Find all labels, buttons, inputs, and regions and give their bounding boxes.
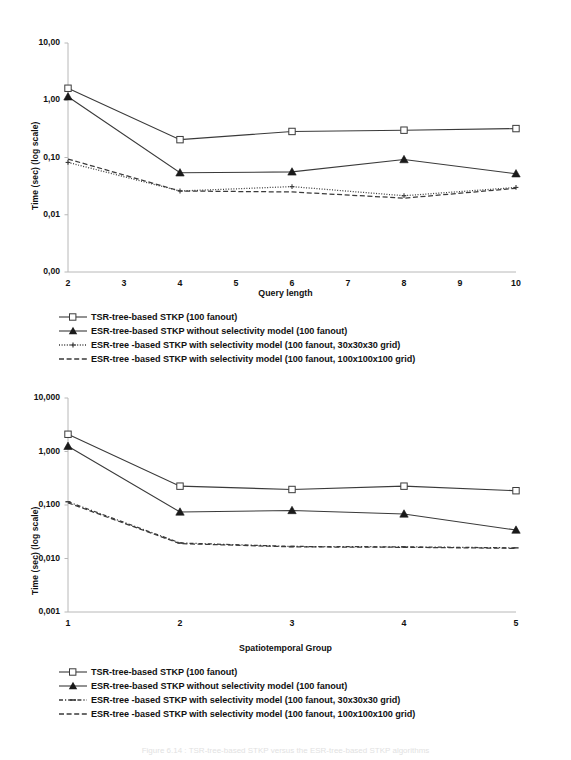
legend-marker-icon: [58, 666, 88, 678]
x-tick-label: 5: [503, 618, 529, 628]
legend-item[interactable]: ESR-tree -based STKP with selectivity mo…: [58, 707, 415, 721]
legend-item-label: ESR-tree -based STKP with selectivity mo…: [91, 708, 415, 720]
y-axis-title-1: Time (sec) (log scale): [30, 122, 40, 211]
plot-area-1: Time (sec) (log scale) Query length 10,0…: [0, 0, 571, 300]
x-tick-label: 1: [55, 618, 81, 628]
legend-marker-icon: [58, 339, 88, 351]
y-tick-label: 0,100: [14, 499, 60, 509]
chart-canvas-1: [0, 0, 571, 300]
x-tick-label: 10: [503, 278, 529, 288]
y-tick-label: 0,010: [14, 553, 60, 563]
y-tick-label: 0,01: [14, 209, 60, 219]
figure-caption: Figure 6.14 : TSR-tree-based STKP versus…: [0, 746, 571, 755]
x-tick-label: 2: [55, 278, 81, 288]
y-tick-label: 10,000: [14, 392, 60, 402]
x-axis-title-1: Query length: [0, 288, 571, 298]
legend-item-label: TSR-tree-based STKP (100 fanout): [91, 666, 237, 678]
chart-query-length: Time (sec) (log scale) Query length 10,0…: [0, 0, 571, 380]
legend-item[interactable]: TSR-tree-based STKP (100 fanout): [58, 310, 415, 324]
x-tick-label: 3: [279, 618, 305, 628]
legend-marker-icon: [58, 680, 88, 692]
x-tick-label: 5: [223, 278, 249, 288]
legend-2: TSR-tree-based STKP (100 fanout)ESR-tree…: [58, 665, 415, 721]
legend-item[interactable]: ESR-tree-based STKP without selectivity …: [58, 324, 415, 338]
figure-page: Time (sec) (log scale) Query length 10,0…: [0, 0, 571, 760]
y-tick-label: 0,10: [14, 152, 60, 162]
x-tick-label: 7: [335, 278, 361, 288]
chart-canvas-2: [0, 380, 571, 680]
legend-item-label: ESR-tree-based STKP without selectivity …: [91, 680, 347, 692]
legend-item[interactable]: ESR-tree -based STKP with selectivity mo…: [58, 352, 415, 366]
legend-marker-icon: [58, 694, 88, 706]
legend-1: TSR-tree-based STKP (100 fanout)ESR-tree…: [58, 310, 415, 366]
legend-marker-icon: [58, 325, 88, 337]
legend-item-label: TSR-tree-based STKP (100 fanout): [91, 311, 237, 323]
x-axis-title-2: Spatiotemporal Group: [0, 643, 571, 653]
x-tick-label: 6: [279, 278, 305, 288]
x-tick-label: 4: [391, 618, 417, 628]
y-tick-label: 10,00: [14, 37, 60, 47]
legend-item-label: ESR-tree -based STKP with selectivity mo…: [91, 339, 400, 351]
legend-item[interactable]: ESR-tree -based STKP with selectivity mo…: [58, 338, 415, 352]
legend-marker-icon: [58, 311, 88, 323]
legend-item[interactable]: ESR-tree-based STKP without selectivity …: [58, 679, 415, 693]
legend-item[interactable]: ESR-tree -based STKP with selectivity mo…: [58, 693, 415, 707]
legend-marker-icon: [58, 353, 88, 365]
chart-spatiotemporal-group: Time (sec) (log scale) Spatiotemporal Gr…: [0, 380, 571, 760]
x-tick-label: 9: [447, 278, 473, 288]
plot-area-2: Time (sec) (log scale) Spatiotemporal Gr…: [0, 380, 571, 680]
y-tick-label: 1,00: [14, 94, 60, 104]
y-tick-label: 0,00: [14, 266, 60, 276]
x-tick-label: 2: [167, 618, 193, 628]
x-tick-label: 4: [167, 278, 193, 288]
y-axis-title-2: Time (sec) (log scale): [30, 507, 40, 596]
legend-item-label: ESR-tree-based STKP without selectivity …: [91, 325, 347, 337]
legend-item-label: ESR-tree -based STKP with selectivity mo…: [91, 694, 400, 706]
x-tick-label: 3: [111, 278, 137, 288]
legend-item[interactable]: TSR-tree-based STKP (100 fanout): [58, 665, 415, 679]
legend-item-label: ESR-tree -based STKP with selectivity mo…: [91, 353, 415, 365]
y-tick-label: 1,000: [14, 446, 60, 456]
y-tick-label: 0,001: [14, 606, 60, 616]
x-tick-label: 8: [391, 278, 417, 288]
legend-marker-icon: [58, 708, 88, 720]
